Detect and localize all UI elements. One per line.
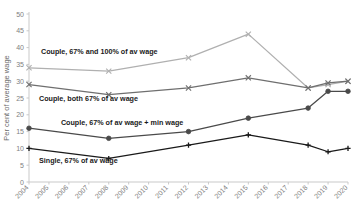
- y-tick-label: 10: [16, 145, 24, 152]
- x-tick-label: 2011: [154, 184, 170, 200]
- x-axis-tick-labels: 2004200520062007200820092010201120122013…: [14, 182, 349, 200]
- data-point-marker: [186, 142, 191, 147]
- data-point-marker: [346, 89, 351, 94]
- data-point-marker: [325, 149, 330, 154]
- x-tick-label: 2018: [293, 184, 309, 200]
- x-tick-label: 2008: [93, 184, 109, 200]
- series-couple-67-and-100-of-av-wage: [26, 32, 350, 91]
- x-tick-label: 2017: [273, 184, 289, 200]
- data-point-marker: [306, 142, 311, 147]
- data-point-marker: [106, 136, 111, 141]
- x-tick-label: 2014: [213, 184, 229, 200]
- data-point-marker: [186, 129, 191, 134]
- x-tick-label: 2007: [74, 184, 90, 200]
- data-point-marker: [246, 132, 251, 137]
- y-tick-label: 20: [16, 111, 24, 118]
- series-annotation-label: Couple, 67% of av wage + min wage: [61, 118, 183, 127]
- x-tick-label: 2005: [34, 184, 50, 200]
- y-tick-label: 35: [16, 61, 24, 68]
- series-annotation-label: Couple, 67% and 100% of av wage: [41, 47, 158, 56]
- y-tick-label: 25: [16, 95, 24, 102]
- data-point-marker: [306, 106, 311, 111]
- x-tick-label: 2009: [113, 184, 129, 200]
- y-tick-label: 30: [16, 78, 24, 85]
- x-tick-label: 2019: [313, 184, 329, 200]
- x-tick-label: 2004: [14, 184, 30, 200]
- x-tick-label: 2013: [193, 184, 209, 200]
- y-axis-title: Per cent of average wage: [2, 55, 11, 140]
- line-chart: 05101520253035404550 Per cent of average…: [0, 0, 354, 221]
- series-line: [29, 34, 348, 88]
- data-point-marker: [246, 32, 251, 37]
- y-tick-label: 5: [20, 162, 24, 169]
- data-point-marker: [326, 89, 331, 94]
- series-annotation-label: Couple, both 67% of av wage: [39, 94, 138, 103]
- data-point-marker: [27, 126, 32, 131]
- x-tick-label: 2006: [54, 184, 70, 200]
- series-annotations: Couple, 67% and 100% of av wageCouple, b…: [39, 47, 183, 166]
- y-tick-label: 15: [16, 128, 24, 135]
- x-tick-label: 2016: [253, 184, 269, 200]
- data-point-marker: [345, 146, 350, 151]
- x-tick-label: 2010: [133, 184, 149, 200]
- series-annotation-label: Single, 67% of av wage: [39, 156, 118, 165]
- data-point-marker: [246, 116, 251, 121]
- chart-container: 05101520253035404550 Per cent of average…: [0, 0, 354, 221]
- data-point-marker: [26, 146, 31, 151]
- x-tick-label: 2020: [333, 184, 349, 200]
- x-tick-label: 2012: [173, 184, 189, 200]
- x-tick-label: 2015: [233, 184, 249, 200]
- y-axis-tick-labels: 05101520253035404550: [16, 11, 29, 186]
- y-axis-title-text: Per cent of average wage: [2, 55, 11, 140]
- y-tick-label: 45: [16, 27, 24, 34]
- y-tick-label: 50: [16, 11, 24, 18]
- y-tick-label: 40: [16, 44, 24, 51]
